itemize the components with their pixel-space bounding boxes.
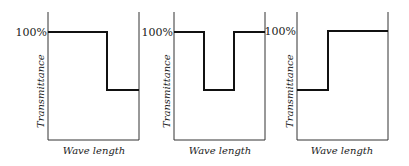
panel-1: 100% Transmittance Wave length xyxy=(16,12,139,156)
panel-3-ytick: 100% xyxy=(265,25,296,38)
panel-1-xlabel: Wave length xyxy=(63,145,126,156)
panel-2-xlabel: Wave length xyxy=(189,145,252,156)
panel-3-xlabel: Wave length xyxy=(311,145,374,156)
panel-2-curve xyxy=(174,32,265,90)
panel-3-curve xyxy=(297,31,388,90)
panel-2: 100% Transmittance Wave length xyxy=(142,12,265,156)
filter-transmittance-figure: 100% Transmittance Wave length 100% Tran… xyxy=(0,0,409,166)
panel-1-curve xyxy=(48,32,139,90)
panel-1-ylabel: Transmittance xyxy=(35,54,46,128)
panel-2-ytick: 100% xyxy=(142,26,173,39)
panel-3-ylabel: Transmittance xyxy=(284,54,295,128)
panel-3: 100% Transmittance Wave length xyxy=(265,12,388,156)
panel-1-ytick: 100% xyxy=(16,26,47,39)
panel-2-ylabel: Transmittance xyxy=(161,54,172,128)
